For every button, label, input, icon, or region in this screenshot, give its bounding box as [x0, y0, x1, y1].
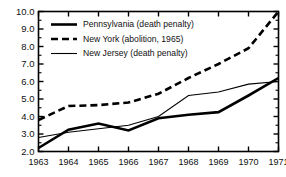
- y-tick-label: 8.0: [21, 41, 34, 52]
- x-tick-label: 1966: [118, 157, 138, 167]
- x-tick-label: 1963: [28, 157, 48, 167]
- y-tick-label: 4.0: [21, 111, 34, 122]
- y-tick-label: 9.0: [21, 23, 34, 34]
- legend-label-1: New York (abolition, 1965): [83, 34, 183, 44]
- y-tick-label: 3.0: [21, 128, 34, 139]
- y-tick-label: 2.0: [21, 146, 34, 157]
- x-tick-label: 1965: [88, 157, 108, 167]
- x-tick-label: 1967: [148, 157, 168, 167]
- x-axis-labels: 196319641965196619671968196919701971: [28, 157, 286, 167]
- y-tick-label: 10.0: [16, 6, 35, 17]
- legend-label-0: Pennsylvania (death penalty): [83, 19, 194, 29]
- y-tick-label: 7.0: [21, 58, 34, 69]
- line-chart: 2.03.04.05.06.07.08.09.010.0 19631964196…: [0, 0, 286, 177]
- x-tick-label: 1964: [58, 157, 78, 167]
- legend-label-2: New Jersey (death penalty): [83, 48, 188, 58]
- x-tick-label: 1970: [238, 157, 258, 167]
- x-tick-label: 1969: [208, 157, 228, 167]
- x-tick-label: 1971: [268, 157, 286, 167]
- y-tick-label: 6.0: [21, 76, 34, 87]
- chart-figure: 2.03.04.05.06.07.08.09.010.0 19631964196…: [0, 0, 286, 177]
- y-tick-label: 5.0: [21, 93, 34, 104]
- x-tick-label: 1968: [178, 157, 198, 167]
